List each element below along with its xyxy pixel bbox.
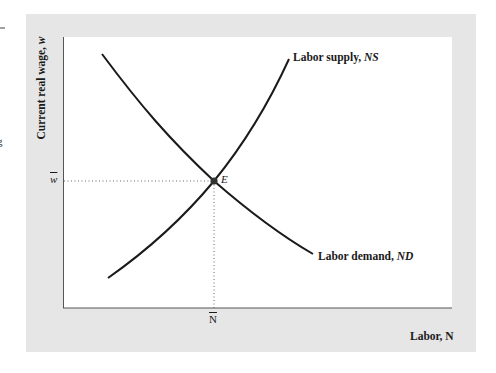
- y-axis-title-text: Current real wage,: [35, 44, 47, 139]
- demand-label: Labor demand, ND: [318, 250, 413, 262]
- y-tick-wage: w: [50, 173, 57, 185]
- x-axis-title: Labor, N: [410, 330, 454, 342]
- supply-label-text: Labor supply,: [293, 51, 364, 63]
- supply-label: Labor supply, NS: [293, 51, 379, 63]
- labor-demand-curve: [102, 54, 313, 254]
- supply-label-symbol: NS: [364, 51, 379, 63]
- y-axis-title: Current real wage, w: [35, 36, 47, 139]
- demand-label-symbol: ND: [397, 250, 414, 262]
- y-axis-title-symbol: w: [35, 36, 47, 44]
- demand-label-text: Labor demand,: [318, 250, 397, 262]
- x-tick-labor: N: [209, 313, 217, 325]
- labor-supply-curve: [108, 59, 289, 278]
- chart-graphics: [0, 0, 496, 373]
- fragment-letter: g: [0, 135, 3, 147]
- equilibrium-point: [210, 177, 217, 184]
- equilibrium-label: E: [221, 173, 228, 185]
